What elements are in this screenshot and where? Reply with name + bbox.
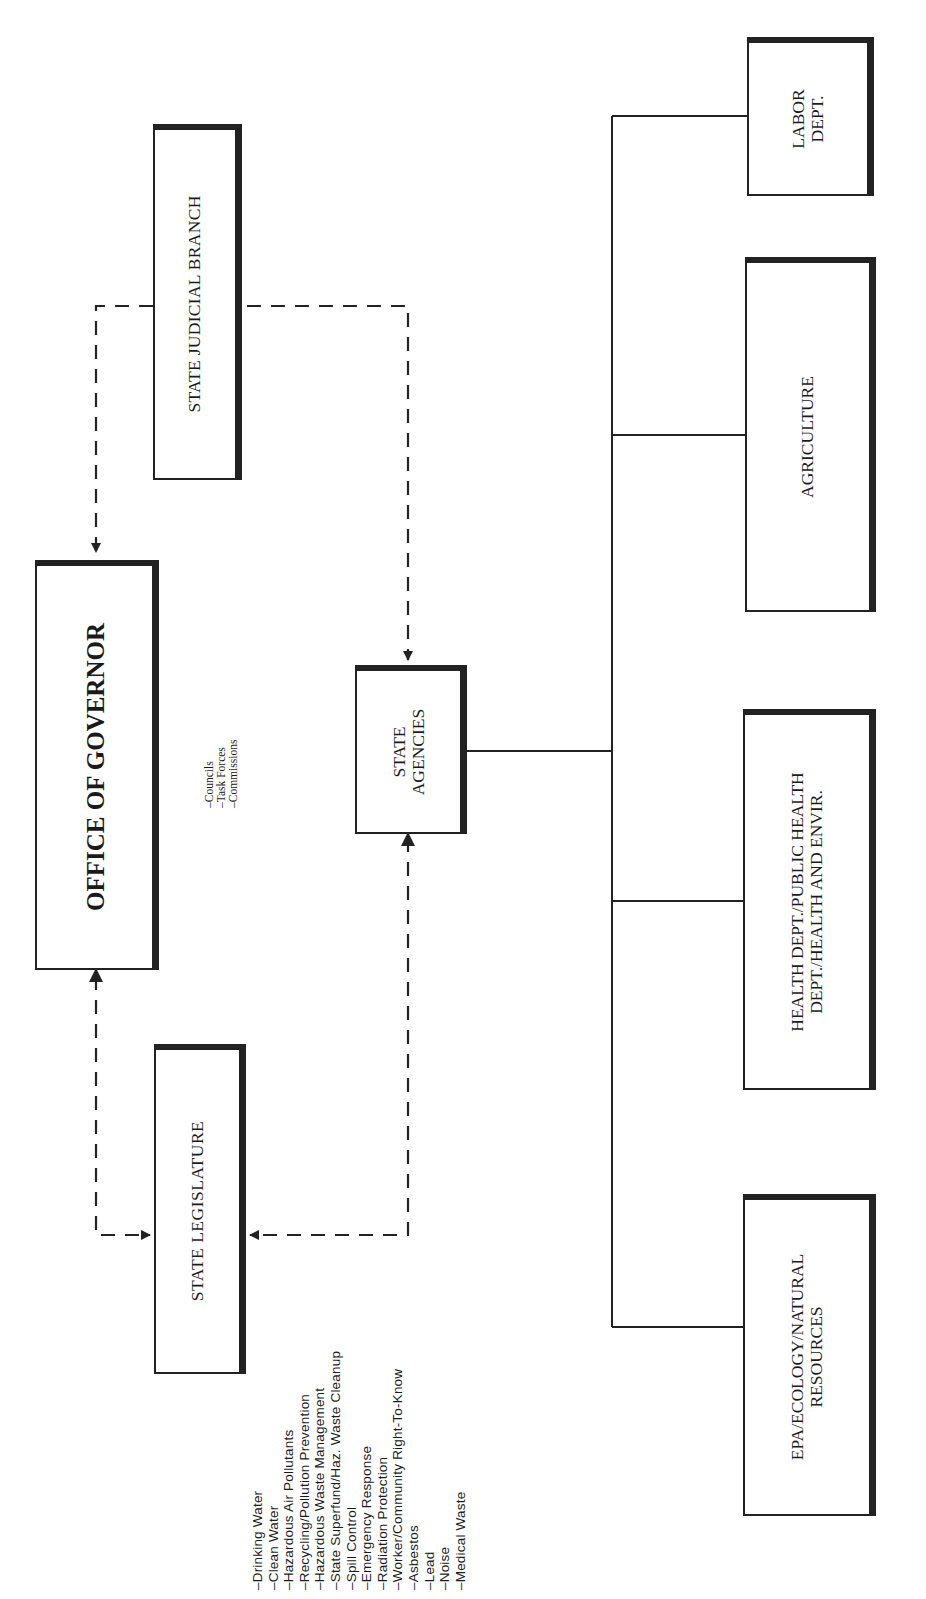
node-office-of-governor: OFFICE OF GOVERNOR <box>35 560 159 970</box>
node-state-legislature: STATE LEGISLATURE <box>154 1044 246 1374</box>
node-label-line-1: LABOR <box>789 89 808 148</box>
legislature-program-list: –Drinking Water –Clean Water –Hazardous … <box>250 1351 468 1590</box>
node-label-line-2: DEPT. <box>808 89 827 148</box>
program-item: –Spill Control <box>344 1351 360 1590</box>
program-item: –Clean Water <box>266 1351 282 1590</box>
program-item: –Radiation Protection <box>375 1351 391 1590</box>
node-label: STATE AGENCIES <box>390 708 428 795</box>
node-label: OFFICE OF GOVERNOR <box>82 623 107 911</box>
dashed-judicial-to-governor <box>96 306 153 552</box>
node-label-line-1: STATE <box>390 708 409 795</box>
sub-item: –Councils <box>203 740 215 808</box>
sub-item: –Task Forces <box>215 740 227 808</box>
node-judicial-branch: STATE JUDICIAL BRANCH <box>153 124 242 480</box>
program-item: –Noise <box>437 1351 453 1590</box>
program-item: –Medical Waste <box>453 1351 469 1590</box>
program-item: –Hazardous Waste Management <box>312 1351 328 1590</box>
node-label-line-1: EPA/ECOLOGY/NATURAL <box>788 1254 807 1460</box>
dashed-judicial-to-agencies <box>247 306 408 660</box>
node-label: LABOR DEPT. <box>789 89 827 148</box>
node-labor-dept: LABOR DEPT. <box>747 37 874 196</box>
node-epa-ecology: EPA/ECOLOGY/NATURAL RESOURCES <box>743 1194 876 1516</box>
node-health-dept: HEALTH DEPT./PUBLIC HEALTH DEPT./HEALTH … <box>743 709 876 1090</box>
node-label: STATE JUDICIAL BRANCH <box>186 195 204 412</box>
node-state-agencies: STATE AGENCIES <box>355 665 467 834</box>
program-item: –Drinking Water <box>250 1351 266 1590</box>
program-item: –Worker/Community Right-To-Know <box>390 1351 406 1590</box>
program-item: –Emergency Response <box>359 1351 375 1590</box>
governor-sub-items: –Councils –Task Forces –Commissions <box>203 740 239 808</box>
program-item: –State Superfund/Haz. Waste Cleanup <box>328 1351 344 1590</box>
dashed-agencies-to-legislature <box>250 838 408 1235</box>
node-label-line-2: RESOURCES <box>807 1254 826 1460</box>
node-label-line-2: DEPT./HEALTH AND ENVIR. <box>807 772 826 1031</box>
program-item: –Hazardous Air Pollutants <box>281 1351 297 1590</box>
node-label: AGRICULTURE <box>799 376 817 498</box>
program-item: –Lead <box>422 1351 438 1590</box>
node-label-line-2: AGENCIES <box>409 708 428 795</box>
arrow-up-to-governor <box>89 968 103 982</box>
dashed-governor-to-legislature <box>96 976 150 1235</box>
program-item: –Asbestos <box>406 1351 422 1590</box>
node-label: HEALTH DEPT./PUBLIC HEALTH DEPT./HEALTH … <box>788 772 826 1031</box>
arrow-up-to-agencies <box>401 832 415 846</box>
node-agriculture: AGRICULTURE <box>745 257 876 612</box>
node-label: STATE LEGISLATURE <box>189 1121 207 1302</box>
node-label-line-1: HEALTH DEPT./PUBLIC HEALTH <box>788 772 807 1031</box>
node-label: EPA/ECOLOGY/NATURAL RESOURCES <box>788 1254 826 1460</box>
sub-item: –Commissions <box>227 740 239 808</box>
program-item: –Recycling/Pollution Prevention <box>297 1351 313 1590</box>
